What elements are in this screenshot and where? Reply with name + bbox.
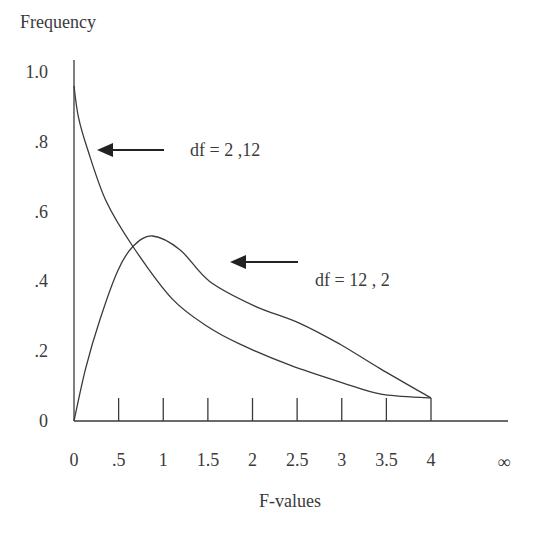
- x-tick-label: 2.5: [286, 450, 309, 470]
- x-tick-label: 1: [159, 450, 168, 470]
- x-tick-label: 3.5: [375, 450, 398, 470]
- y-tick-label: .8: [35, 132, 49, 152]
- arrow-icon: [97, 143, 164, 157]
- x-axis-title: F-values: [259, 491, 321, 511]
- f-distribution-chart: Frequency F-values 0.511.522.533.54 0.2.…: [0, 0, 547, 533]
- arrow-icon: [230, 255, 298, 269]
- x-tick-label: 0: [70, 450, 79, 470]
- x-tick-label: 4: [427, 450, 436, 470]
- x-tick-label: 3: [337, 450, 346, 470]
- x-tick-label: .5: [112, 450, 126, 470]
- x-tick-label: 1.5: [197, 450, 220, 470]
- x-tick-label: 2: [248, 450, 257, 470]
- y-tick-label: 1.0: [26, 62, 49, 82]
- y-axis-ticks: 0.2.4.6.81.0: [26, 62, 49, 431]
- x-axis-ticks: 0.511.522.533.54: [70, 398, 436, 470]
- annotation-df-12-2: df = 12 , 2: [315, 270, 390, 290]
- y-tick-label: .2: [35, 341, 49, 361]
- annotation-df-2-12: df = 2 ,12: [190, 140, 260, 160]
- curve-df-2-12: [74, 86, 431, 398]
- y-tick-label: 0: [39, 411, 48, 431]
- y-tick-label: .6: [35, 202, 49, 222]
- y-axis-title: Frequency: [20, 12, 96, 32]
- y-tick-label: .4: [35, 271, 49, 291]
- x-infinity-label: ∞: [498, 452, 511, 472]
